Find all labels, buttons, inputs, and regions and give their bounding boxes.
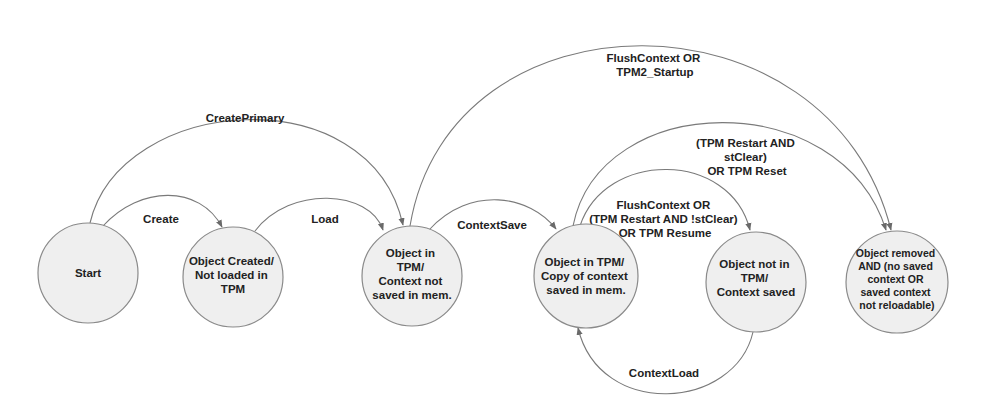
svg-text:Object in TPM/ Copy of c: Object in TPM/ Copy of context saved in …	[541, 256, 631, 296]
state-diagram: CreatePrimary Create Load FlushContext O…	[0, 0, 984, 410]
edge-label-contextsave: ContextSave	[457, 219, 527, 231]
edge-contextload	[578, 328, 753, 394]
node-object-created: Object Created/ Not loaded in TPM	[183, 227, 283, 327]
node-object-in-tpm-not-saved: Object in TPM/ Context not saved in mem.	[362, 226, 462, 326]
edge-label-createprimary: CreatePrimary	[206, 112, 285, 124]
svg-text:Object removed AND (no s: Object removed AND (no saved context OR …	[856, 247, 938, 311]
edge-label-restart-reset: (TPM Restart AND stClear) OR TPM Reset	[696, 137, 798, 177]
edge-label-create: Create	[143, 213, 179, 225]
node-object-not-in-tpm: Object not in TPM/ Context saved	[706, 232, 806, 332]
edge-label-flush-startup: FlushContext OR TPM2_Startup	[606, 52, 703, 78]
edge-label-contextload: ContextLoad	[629, 367, 699, 379]
node-object-in-tpm-saved: Object in TPM/ Copy of context saved in …	[534, 224, 638, 328]
node-object-removed: Object removed AND (no saved context OR …	[846, 231, 948, 333]
node-start: Start	[38, 223, 138, 323]
edge-createprimary	[90, 120, 403, 225]
edge-label-load: Load	[311, 213, 338, 225]
svg-text:Start: Start	[75, 267, 101, 279]
